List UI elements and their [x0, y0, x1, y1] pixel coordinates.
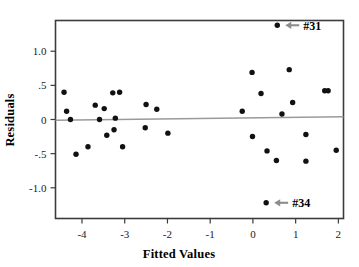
data-point [110, 90, 115, 95]
data-point [264, 148, 269, 153]
annotation-label-id34: #34 [292, 196, 310, 210]
x-tick-label: -3 [120, 228, 130, 240]
data-point [165, 130, 170, 135]
data-point [279, 111, 284, 116]
data-point [93, 102, 98, 107]
x-tick-label: 1 [293, 228, 299, 240]
y-axis-title: Residuals [3, 93, 17, 146]
x-tick-label: -4 [77, 228, 87, 240]
x-tick-label: -1 [206, 228, 215, 240]
y-tick-label: -1.0 [29, 182, 47, 194]
scatter-plot-figure: 1.0.50-.5-1.0 -4-3-2-1012 #31#34 Fitted … [0, 0, 359, 267]
x-axis-title: Fitted Values [143, 247, 215, 261]
data-point [68, 117, 73, 122]
data-point [249, 70, 254, 75]
data-point [117, 89, 122, 94]
data-point [154, 107, 159, 112]
annotation-label-id31: #31 [303, 19, 321, 33]
data-point [104, 133, 109, 138]
data-point [143, 102, 148, 107]
x-tick-label: 2 [336, 228, 342, 240]
data-point [287, 67, 292, 72]
y-tick-label: .5 [38, 79, 47, 91]
data-point [250, 134, 255, 139]
data-point [102, 106, 107, 111]
data-point [263, 200, 268, 205]
data-point [85, 144, 90, 149]
residuals-vs-fitted-scatter-chart: 1.0.50-.5-1.0 -4-3-2-1012 #31#34 Fitted … [0, 0, 359, 267]
data-point [120, 144, 125, 149]
data-point [240, 109, 245, 114]
data-point [303, 132, 308, 137]
y-tick-label: -.5 [35, 148, 47, 160]
data-point [64, 109, 69, 114]
x-tick-label: 0 [250, 228, 256, 240]
y-tick-label: 1.0 [33, 45, 47, 57]
data-point [303, 158, 308, 163]
data-point [143, 125, 148, 130]
data-point [290, 100, 295, 105]
data-point [258, 91, 263, 96]
data-point [275, 23, 280, 28]
data-point [73, 152, 78, 157]
data-point [325, 88, 330, 93]
data-point [61, 89, 66, 94]
y-tick-label: 0 [41, 114, 47, 126]
data-point [97, 117, 102, 122]
x-tick-label: -2 [163, 228, 172, 240]
data-point [113, 115, 118, 120]
data-point [274, 158, 279, 163]
data-point [111, 127, 116, 132]
data-point [334, 148, 339, 153]
